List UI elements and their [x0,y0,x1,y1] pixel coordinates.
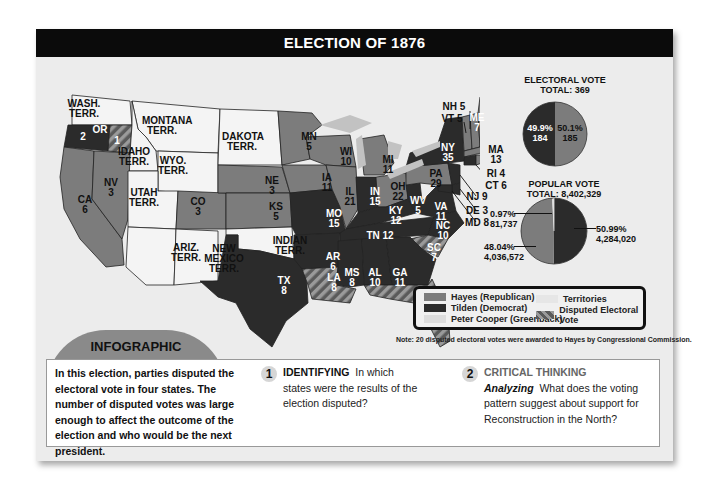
state-label-mn: MN 5 [289,132,329,152]
question-2-heading: CRITICAL THINKING [484,365,654,381]
popular-gb-leader [514,213,552,214]
map-legend: Hayes (Republican) Tilden (Democrat) Pet… [413,286,646,330]
state-label-mi: MI 11 [368,155,408,175]
state-label-it: INDIAN TERR. [270,236,310,256]
question-2-number: 2 [462,366,478,382]
state-label-or_votes_b: 1 [97,136,137,146]
state-label-me: ME 7 [457,113,497,133]
infographic-page: ELECTION OF 1876 [36,29,673,461]
state-label-mo: MO 15 [314,209,354,229]
question-2-skill: Analyzing [484,382,534,394]
electoral-rep-val: 185 [556,133,584,143]
question-1: IDENTIFYING In which states were the res… [283,365,423,412]
legend-label: Hayes (Republican) [451,292,535,302]
state-label-wi: WI 10 [326,147,366,167]
popular-vote-title: POPULAR VOTE TOTAL: 8,402,329 [504,179,624,199]
popular-rep-label: 48.04% 4,036,572 [484,242,524,262]
state-label-la: LA 8 [314,273,354,293]
popular-rep-leader [514,246,536,247]
popular-dem-val: 4,284,020 [596,234,636,244]
state-label-nm: NEW MEXICO TERR. [204,244,244,274]
state-label-dk: DAKOTA TERR. [222,132,262,152]
state-label-id: IDAHO TERR. [114,147,154,167]
swatch-greenback-icon [424,315,446,323]
state-label-sc: SC 7 [414,243,454,263]
state-label-co: CO 3 [178,197,218,217]
legend-item-disputed: Disputed Electoral Vote [536,305,643,325]
state-label-ut: UTAH TERR. [124,188,164,208]
question-2: CRITICAL THINKING Analyzing What does th… [484,365,654,427]
state-label-wy: WYO. TERR. [153,156,193,176]
state-label-ks: KS 5 [256,202,296,222]
electoral-dem-val: 184 [526,133,554,143]
swatch-disputed-icon [536,311,554,319]
state-label-az: ARIZ. TERR. [166,243,206,263]
state-label-mt: MONTANA TERR. [142,116,182,136]
page-title: ELECTION OF 1876 [36,29,673,57]
state-label-tx: TX 8 [264,276,304,296]
popular-gb-val: 81,737 [490,219,518,229]
map-note: Note: 20 disputed electoral votes were a… [396,336,692,343]
electoral-dem-label: 49.9% 184 [526,123,554,143]
electoral-vote-title: ELECTORAL VOTE TOTAL: 369 [520,75,610,95]
state-label-ma: MA 13 [476,145,516,165]
caption-box: In this election, parties disputed the e… [46,359,660,447]
infographic-badge-label: INFOGRAPHIC [46,339,226,354]
swatch-republican-icon [424,293,446,301]
state-label-va: VA 11 [421,202,461,222]
question-1-heading: IDENTIFYING [283,366,350,378]
popular-title-text: POPULAR VOTE [504,179,624,189]
popular-vote-pie [520,197,588,265]
legend-label: Territories [563,294,607,304]
legend-label: Disputed Electoral Vote [559,305,643,325]
legend-item-hayes: Hayes (Republican) [424,292,535,302]
intro-text: In this election, parties disputed the e… [55,366,245,459]
popular-greenback-label: 0.97% 81,737 [490,209,518,229]
state-label-wa: WASH. TERR. [64,99,104,119]
popular-rep-val: 4,036,572 [484,252,524,262]
state-label-tn: TN 12 [360,231,400,241]
state-label-nh: NH 5 [434,102,474,112]
swatch-territory-icon [536,295,558,303]
electoral-rep-label: 50.1% 185 [556,123,584,143]
state-label-ne: NE 3 [252,176,292,196]
legend-item-tilden: Tilden (Democrat) [424,303,527,313]
electoral-dem-pct: 49.9% [526,123,554,133]
electoral-total-text: TOTAL: 369 [520,85,610,95]
state-label-ri: RI 4 [476,169,516,179]
popular-dem-leader [574,228,596,229]
popular-rep-pct: 48.04% [484,242,524,252]
state-label-nj: NJ 9 [457,192,497,202]
popular-gb-pct: 0.97% [490,209,518,219]
popular-dem-pct: 50.99% [596,224,636,234]
electoral-title-text: ELECTORAL VOTE [520,75,610,85]
state-label-pa: PA 29 [416,169,456,189]
question-1-number: 1 [261,366,277,382]
state-label-ga: GA 11 [380,268,420,288]
legend-item-territories: Territories [536,294,607,304]
state-label-ny: NY 35 [428,143,468,163]
legend-label: Tilden (Democrat) [451,303,527,313]
swatch-democrat-icon [424,304,446,312]
state-label-ca: CA 6 [65,195,105,215]
popular-dem-label: 50.99% 4,284,020 [596,224,636,244]
electoral-rep-pct: 50.1% [556,123,584,133]
